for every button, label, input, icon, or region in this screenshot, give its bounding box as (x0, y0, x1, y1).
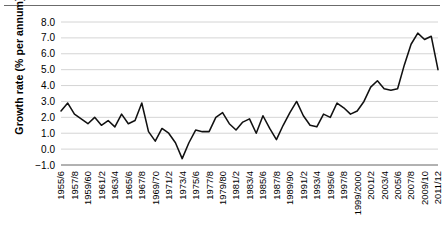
growth-rate-line (61, 33, 438, 159)
x-axis-tick-label: 1961/2 (96, 171, 107, 200)
y-axis-tick-label: 3.0 (41, 96, 55, 107)
y-axis-tick-label: 7.0 (41, 32, 55, 43)
plot-area: 8.07.06.05.04.03.02.01.00.0−1.0 1955/619… (0, 0, 444, 229)
x-axis-tick-label: 1959/60 (82, 171, 93, 205)
x-axis-tick-label: 1967/8 (136, 171, 147, 200)
y-axis-tick-label: 6.0 (41, 48, 55, 59)
x-axis-tick-label: 1993/4 (311, 171, 322, 200)
x-axis-tick-label: 1977/8 (204, 171, 215, 200)
x-axis-tick-label: 1991/2 (298, 171, 309, 200)
x-axis-tick-label: 1987/8 (271, 171, 282, 200)
y-axis-tick-label: 4.0 (41, 80, 55, 91)
x-axis-tick-label: 1969/70 (150, 171, 161, 205)
y-axis-tick-label: 5.0 (41, 64, 55, 75)
x-axis-tick-label: 1989/90 (284, 171, 295, 205)
y-axis-tick-label: 2.0 (41, 112, 55, 123)
x-axis-tick-label: 2011/12 (432, 171, 443, 204)
x-axis-tick-label: 1965/6 (123, 171, 134, 200)
y-axis-tick-label: 8.0 (41, 17, 55, 28)
x-axis-tick-label: 1999/2000 (352, 171, 363, 215)
line-chart: 8.07.06.05.04.03.02.01.00.0−1.0 1955/619… (0, 0, 444, 229)
x-axis-tick-label: 1979/80 (217, 171, 228, 205)
x-axis-tick-label: 1973/4 (177, 171, 188, 200)
x-axis-tick-label: 1983/4 (244, 171, 255, 200)
x-axis-tick-label: 2007/8 (405, 171, 416, 200)
y-axis-ticks-group: 8.07.06.05.04.03.02.01.00.0−1.0 (35, 17, 55, 171)
x-axis-tick-label: 1981/2 (230, 171, 241, 200)
gridlines-group (61, 22, 438, 165)
x-axis-tick-label: 1963/4 (109, 171, 120, 200)
y-axis-tick-label: 0.0 (41, 144, 55, 155)
y-axis-tick-label: −1.0 (35, 160, 55, 171)
x-axis-tick-label: 1971/2 (163, 171, 174, 200)
y-axis-tick-label: 1.0 (41, 128, 55, 139)
x-axis-ticks-group: 1955/61957/81959/601961/21963/41965/6196… (55, 171, 443, 215)
x-axis-tick-label: 1957/8 (69, 171, 80, 200)
x-axis-tick-label: 2003/4 (379, 171, 390, 200)
x-axis-tick-label: 1997/8 (338, 171, 349, 200)
x-axis-tick-label: 1975/6 (190, 171, 201, 200)
figure-container: Growth rate (% per annum) 8.07.06.05.04.… (0, 0, 444, 229)
x-axis-tick-label: 2005/6 (392, 171, 403, 200)
x-axis-tick-label: 1985/6 (257, 171, 268, 200)
x-axis-tick-label: 2009/10 (419, 171, 430, 205)
x-axis-tick-label: 2001/2 (365, 171, 376, 200)
x-axis-tick-label: 1955/6 (55, 171, 66, 200)
data-series-group (61, 33, 438, 159)
x-axis-tick-label: 1995/6 (325, 171, 336, 200)
